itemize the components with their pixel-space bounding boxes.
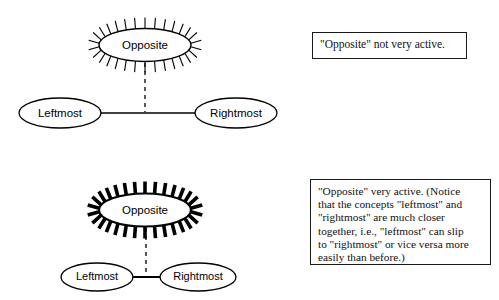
figure-canvas: Opposite Leftmost Rightmost Opposite (0, 0, 499, 300)
callout-bottom-line: that the concepts "leftmost" and (318, 198, 483, 211)
node-leftmost-top-label: Leftmost (38, 107, 83, 119)
node-opposite-bottom-label: Opposite (122, 204, 168, 216)
node-rightmost-bottom-label: Rightmost (173, 270, 223, 282)
callout-bottom-line: "rightmost" are much closer (318, 211, 483, 224)
node-opposite-top-label: Opposite (122, 39, 168, 51)
callout-top-text: "Opposite" not very active. (320, 38, 445, 50)
callout-bottom-line: to "rightmost" or vice versa more (318, 238, 483, 251)
node-rightmost-top-label: Rightmost (210, 107, 263, 119)
callout-bottom-line: "Opposite" very active. (Notice (318, 185, 483, 198)
callout-bottom-line: together, i.e., "leftmost" can slip (318, 225, 483, 238)
callout-bottom-line: easily than before.) (318, 251, 483, 264)
callout-box-inactive: "Opposite" not very active. (312, 32, 467, 59)
diagram-active-state: Opposite Leftmost Rightmost (61, 182, 236, 292)
callout-box-active: "Opposite" very active. (Notice that the… (310, 179, 491, 265)
node-leftmost-bottom-label: Leftmost (76, 270, 118, 282)
diagram-inactive-state: Opposite Leftmost Rightmost (19, 18, 277, 129)
